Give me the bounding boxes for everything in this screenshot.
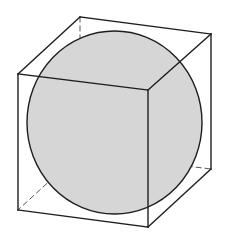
sphere: [27, 31, 202, 214]
edge-back-top-left-to-back-top-right: [80, 17, 211, 34]
sphere-in-cube-diagram: [0, 0, 225, 240]
